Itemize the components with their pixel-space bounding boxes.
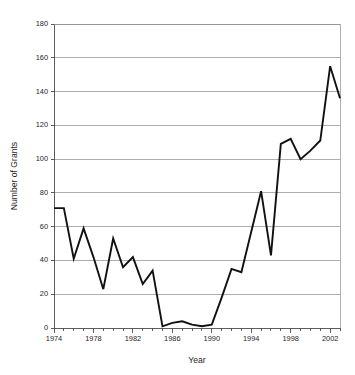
- data-series-group: [54, 66, 340, 326]
- gridlines-group: [54, 24, 340, 294]
- data-line-series-0: [54, 66, 340, 326]
- x-tick-label-1998: 1998: [282, 334, 298, 343]
- y-tick-label-140: 140: [36, 87, 48, 96]
- y-axis-tick-labels: 020406080100120140160180: [36, 19, 48, 332]
- y-tick-label-100: 100: [36, 154, 48, 163]
- x-tick-label-1994: 1994: [243, 334, 259, 343]
- x-axis-title: Year: [188, 355, 206, 365]
- y-tick-label-20: 20: [40, 289, 48, 298]
- y-axis-title: Number of Grants: [9, 142, 19, 210]
- y-tick-label-0: 0: [44, 323, 48, 332]
- x-axis-ticks: [54, 328, 340, 333]
- y-tick-label-120: 120: [36, 120, 48, 129]
- y-axis-ticks: [51, 24, 55, 328]
- y-tick-label-80: 80: [40, 188, 48, 197]
- x-tick-label-1990: 1990: [204, 334, 220, 343]
- x-tick-label-1974: 1974: [46, 334, 62, 343]
- x-axis-tick-labels: 19741978198219861990199419982002: [46, 334, 339, 343]
- plot-frame: [54, 24, 340, 328]
- chart-svg: 020406080100120140160180 197419781982198…: [0, 0, 355, 375]
- y-tick-label-40: 40: [40, 255, 48, 264]
- x-tick-label-2002: 2002: [322, 334, 338, 343]
- x-tick-label-1986: 1986: [164, 334, 180, 343]
- grants-line-chart: 020406080100120140160180 197419781982198…: [0, 0, 355, 375]
- y-tick-label-60: 60: [40, 222, 48, 231]
- x-tick-label-1982: 1982: [125, 334, 141, 343]
- y-tick-label-160: 160: [36, 53, 48, 62]
- y-tick-label-180: 180: [36, 19, 48, 28]
- x-tick-label-1978: 1978: [85, 334, 101, 343]
